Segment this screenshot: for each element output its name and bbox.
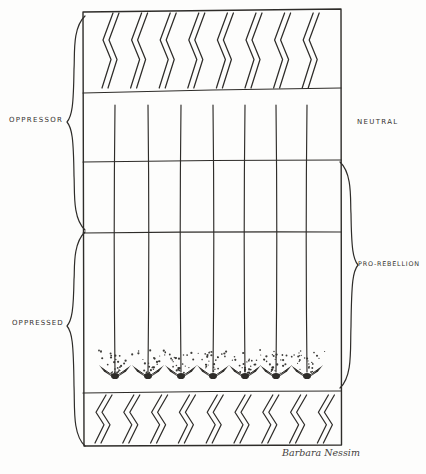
top-zigzag-band bbox=[102, 13, 319, 88]
bottom-zigzag-band bbox=[95, 395, 334, 443]
vertical-streak-lines bbox=[114, 105, 307, 372]
artist-signature: Barbara Nessim bbox=[282, 447, 360, 458]
zone-divider-lines bbox=[83, 88, 341, 393]
illustration-page: OPPRESSOR NEUTRAL OPPRESSED PRO-REBELLIO… bbox=[0, 0, 426, 474]
label-oppressed: OPPRESSED bbox=[12, 319, 64, 327]
panel-frame bbox=[83, 9, 342, 446]
label-oppressor: OPPRESSOR bbox=[9, 116, 63, 124]
label-neutral: NEUTRAL bbox=[357, 118, 398, 126]
illustration-canvas bbox=[0, 0, 426, 474]
impact-splash-arrows bbox=[98, 349, 325, 379]
label-pro-rebellion: PRO-REBELLION bbox=[358, 260, 420, 268]
